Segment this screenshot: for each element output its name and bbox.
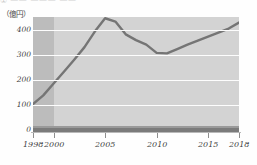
x-tick-label-2018: 2018	[229, 140, 249, 149]
x-tick-2005	[105, 133, 106, 138]
gridline-100	[33, 105, 239, 106]
plot-area	[33, 17, 239, 130]
gridline-200	[33, 80, 239, 81]
x-tick-label-1998: 1998	[23, 140, 43, 149]
x-tick-2000	[54, 133, 55, 138]
x-tick-label-2005: 2005	[95, 140, 115, 149]
x-tick-label-2000: 2000	[44, 140, 64, 149]
gridline-400	[33, 30, 239, 31]
x-tick-label-2010: 2010	[147, 140, 167, 149]
zero-axis-rule	[31, 132, 241, 133]
y-tick-label-200: 200	[17, 76, 31, 84]
gridline-300	[33, 55, 239, 56]
chart-figure: ① —— ——— —— （億円） 0100200300400 199820002…	[0, 0, 257, 165]
x-tick-1998	[33, 133, 34, 138]
x-tick-2018	[239, 133, 240, 138]
y-tick-label-400: 400	[17, 26, 31, 34]
series-line-金額	[33, 17, 239, 130]
x-tick-2015	[208, 133, 209, 138]
x-tick-label-2015: 2015	[198, 140, 218, 149]
y-tick-label-300: 300	[17, 51, 31, 59]
y-tick-label-100: 100	[17, 101, 31, 109]
x-tick-2010	[157, 133, 158, 138]
